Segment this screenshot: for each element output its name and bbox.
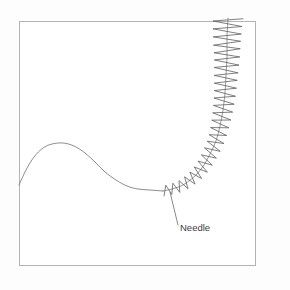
needle-label: Needle [180, 222, 210, 233]
figure-root: Needle [0, 0, 290, 290]
diagram-canvas: Needle [0, 0, 290, 290]
